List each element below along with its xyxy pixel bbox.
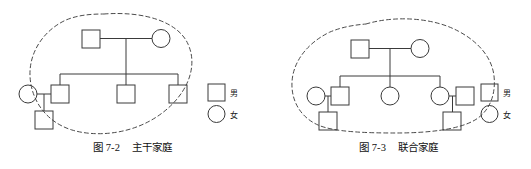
node-eldest-son-wife-circle: [19, 85, 37, 103]
legend-male-square-icon: [481, 84, 498, 101]
node-daughter-husband-square: [456, 87, 474, 105]
node-daughter-circle: [431, 87, 449, 105]
node-second-son-square: [117, 85, 135, 103]
node-son-square: [331, 87, 349, 105]
node-eldest-son-square: [51, 85, 69, 103]
node-grandfather-square: [82, 30, 100, 48]
pedigree-diagram-stem-family: 男 女: [0, 0, 265, 141]
figure-sheet: 男 女 图 7-2 主干家庭: [0, 0, 531, 169]
node-grandchild-square: [35, 111, 53, 129]
node-grandmother-circle: [152, 30, 170, 48]
legend-female-label: 女: [230, 110, 238, 120]
figure-panel-joint-family: 男 女 图 7-3 联合家庭: [266, 0, 531, 169]
legend-female-circle-icon: [481, 106, 498, 123]
figure-caption-stem-family: 图 7-2 主干家庭: [0, 141, 265, 155]
legend-male-square-icon: [208, 84, 225, 101]
node-unmarried-daughter-circle: [381, 87, 399, 105]
node-grandfather-square: [351, 40, 369, 58]
node-son-wife-circle: [307, 87, 325, 105]
figure-caption-joint-family: 图 7-3 联合家庭: [266, 141, 531, 155]
node-grandmother-circle: [411, 40, 429, 58]
figure-panel-stem-family: 男 女 图 7-2 主干家庭: [0, 0, 265, 169]
node-grandchild-right-square: [443, 112, 461, 130]
legend-male-label: 男: [230, 89, 238, 98]
legend-female-label: 女: [503, 110, 511, 120]
legend-female-circle-icon: [208, 106, 225, 123]
pedigree-diagram-joint-family: 男 女: [266, 0, 531, 141]
legend-male-label: 男: [503, 89, 511, 98]
node-grandchild-left-square: [319, 112, 337, 130]
